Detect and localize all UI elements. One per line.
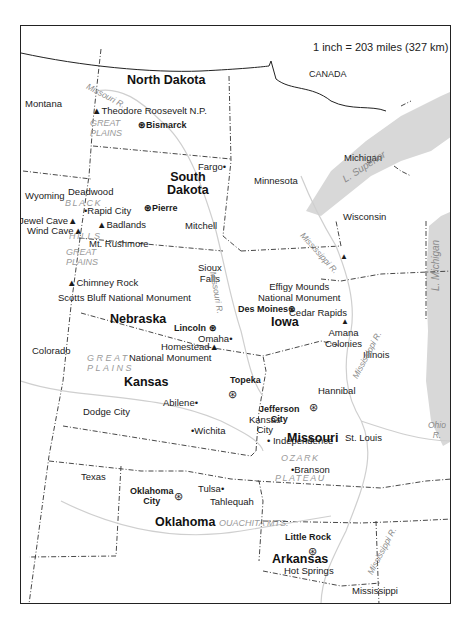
landmark-homestead-nm: National Monument	[129, 353, 211, 363]
state-label-arkansas: Arkansas	[272, 553, 328, 566]
lake-label-michigan: L. Michigan	[431, 240, 441, 291]
landmark-amana-colonies: Amana Colonies	[325, 328, 362, 350]
physical-great-plains-nd: GREAT PLAINS	[90, 118, 122, 139]
capital-star-icon: ⊛	[309, 402, 318, 413]
capital-star-icon: ⊛	[308, 546, 317, 557]
landmark-chimney-rock: ▲Chimney Rock	[67, 278, 138, 288]
landmark-triangle-icon: ▲	[340, 253, 348, 261]
physical-great-plains-ks: GREAT PLAINS	[87, 353, 134, 374]
city-deadwood: Deadwood	[68, 187, 113, 197]
state-label-texas: Texas	[81, 472, 106, 482]
capital-star-icon: ⊛	[209, 323, 217, 333]
city-independence: • Independence	[267, 436, 333, 446]
state-label-kansas: Kansas	[124, 376, 168, 389]
physical-ozark: OZARK	[281, 454, 320, 463]
city-tahlequah: Tahlequah	[210, 497, 254, 507]
landmark-triangle-icon: ▲	[92, 105, 101, 116]
capital-des-moines: Des Moines⊛	[238, 305, 296, 314]
city-wichita: •Wichita	[191, 426, 225, 436]
city-mitchell: Mitchell	[185, 221, 217, 231]
landmark-badlands: ▲Badlands	[97, 220, 146, 230]
city-st-louis: St. Louis	[345, 433, 382, 443]
landmark-theodore-roosevelt-np: ▲Theodore Roosevelt N.P.	[92, 106, 207, 116]
capital-pierre: ⊛Pierre	[144, 204, 178, 213]
city-abilene: Abilene•	[163, 398, 198, 408]
landmark-scotts-bluff: Scotts Bluff National Monument	[58, 293, 191, 303]
capital-star-icon: ⊛	[144, 203, 152, 213]
landmark-effigy-mounds: Effigy Mounds National Monument	[258, 282, 340, 304]
state-label-colorado: Colorado	[32, 346, 71, 356]
city-tulsa: Tulsa•	[198, 484, 224, 494]
capital-star-icon: ⊛	[138, 120, 146, 130]
landmark-triangle-icon: ▲	[97, 219, 106, 230]
capital-star-icon: ⊛	[174, 491, 183, 502]
landmark-homestead: Homestead▲	[161, 342, 219, 352]
state-label-minnesota: Minnesota	[254, 176, 298, 186]
physical-hills: HILLS	[69, 232, 102, 241]
landmark-triangle-icon: ▲	[341, 318, 349, 326]
state-label-south-dakota: South Dakota	[167, 171, 209, 197]
city-cedar-rapids: Cedar Rapids	[289, 308, 347, 318]
scale-label: 1 inch = 203 miles (327 km)	[313, 42, 448, 53]
capital-oklahoma-city: Oklahoma City	[130, 486, 174, 507]
landmark-triangle-icon: ▲	[210, 341, 219, 352]
city-fargo: Fargo•	[198, 162, 226, 172]
capital-star-icon: ⊛	[228, 389, 237, 400]
country-label-canada: CANADA	[309, 70, 347, 79]
physical-great-plains-ne: GREAT PLAINS	[66, 247, 98, 268]
capital-topeka: Topeka	[230, 376, 261, 385]
capital-lincoln: Lincoln ⊛	[174, 324, 217, 333]
city-kansas-city: Kansas City	[249, 415, 281, 436]
state-label-wisconsin: Wisconsin	[343, 212, 386, 222]
state-label-nebraska: Nebraska	[110, 313, 166, 326]
state-label-oklahoma: Oklahoma	[155, 516, 215, 529]
capital-little-rock: Little Rock	[285, 533, 331, 542]
city-hot-springs: Hot Springs	[284, 566, 334, 576]
landmark-triangle-icon: ▲	[67, 277, 76, 288]
physical-black-hills: BLACK	[65, 199, 102, 208]
physical-plateau: PLATEAU	[275, 474, 326, 483]
capital-bismarck: ⊛Bismarck	[138, 121, 187, 130]
state-label-mississippi: Mississippi	[352, 586, 398, 596]
state-label-north-dakota: North Dakota	[127, 74, 205, 87]
city-dodge-city: Dodge City	[83, 407, 130, 417]
city-hannibal: Hannibal	[318, 386, 356, 396]
state-label-montana: Montana	[25, 99, 62, 109]
river-label-ohio: Ohio R.	[428, 420, 446, 440]
state-label-wyoming: Wyoming	[25, 191, 65, 201]
map-frame: 1 inch = 203 miles (327 km) CANADA North…	[20, 25, 451, 604]
physical-ouachita-mts: OUACHITA MTS.	[219, 519, 289, 528]
